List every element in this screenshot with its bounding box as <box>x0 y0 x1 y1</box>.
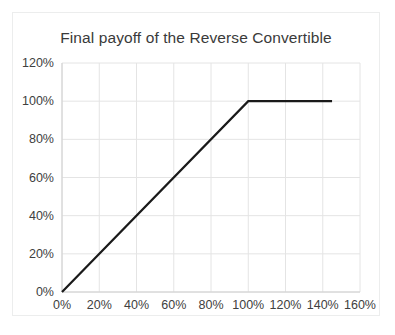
x-axis: 0%20%40%60%80%100%120%140%160% <box>0 0 395 335</box>
x-axis-tick-label: 160% <box>335 298 385 312</box>
